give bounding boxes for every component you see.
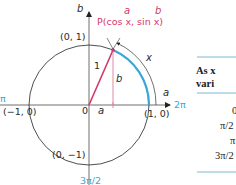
pointer-line-b	[113, 38, 120, 49]
point-top-label: (0, 1)	[60, 31, 86, 42]
unit-circle-figure: π 2π 3π/2 π/2 b a 0 (0, 1) (−1, 0) (1, 0…	[0, 0, 236, 185]
table-row-3: 3π/2	[215, 150, 234, 161]
arc-label: x	[145, 52, 152, 63]
point-left-label: (−1, 0)	[3, 106, 37, 117]
horizontal-segment-label: a	[98, 105, 104, 116]
table-row-2: π	[230, 135, 236, 146]
radius-label: 1	[94, 60, 100, 71]
origin-label: 0	[82, 105, 88, 116]
point-right-label: (1, 0)	[144, 108, 170, 119]
horizontal-axis-label: a	[163, 87, 169, 98]
angle-label-top: π/2	[82, 0, 97, 1]
table-row-0: 0	[232, 105, 236, 116]
point-bottom-label: (0, −1)	[52, 149, 86, 160]
radius-line	[89, 50, 113, 105]
angle-label-right: 2π	[174, 99, 186, 110]
point-p-label: P(cos x, sin x)	[97, 16, 163, 27]
pointer-line-a	[107, 38, 113, 49]
table-row-1: π/2	[220, 120, 233, 131]
angle-label-left: π	[0, 93, 6, 104]
table-header-line2: vari	[196, 78, 214, 89]
vertical-axis-label: b	[77, 3, 83, 14]
vertical-segment-label: b	[116, 73, 122, 84]
p-annotation-b: b	[155, 5, 161, 16]
p-annotation-a: a	[124, 5, 130, 16]
angle-label-bottom: 3π/2	[80, 175, 101, 185]
table-header-line1: As x	[196, 65, 216, 76]
